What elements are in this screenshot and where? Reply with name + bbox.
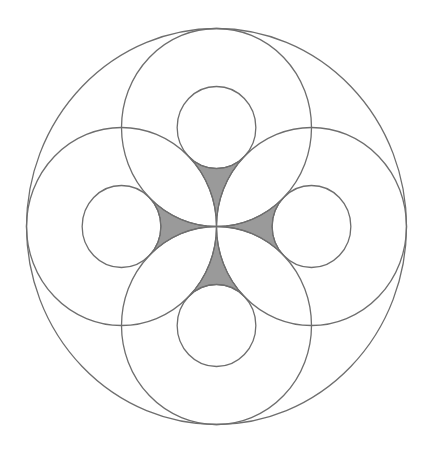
small-circle-left (82, 185, 161, 267)
small-circle-right (272, 185, 351, 267)
diagram-canvas (0, 0, 431, 452)
small-circle-bottom (177, 284, 256, 366)
circles (27, 29, 407, 425)
small-circle-top (177, 86, 256, 168)
geometry-figure: Circle packing diagram with four shaded … (0, 0, 431, 452)
